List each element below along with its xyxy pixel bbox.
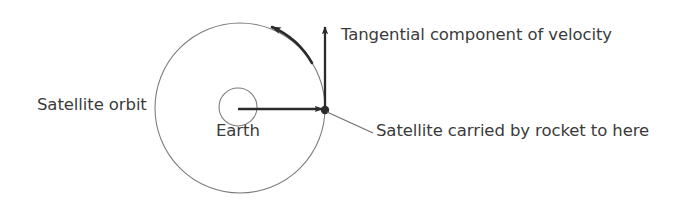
tangential-component-label: Tangential component of velocity (341, 27, 612, 44)
satellite-leader-line (327, 112, 373, 133)
satellite-carried-label: Satellite carried by rocket to here (376, 123, 649, 140)
satellite-orbit-label: Satellite orbit (37, 97, 147, 114)
satellite-orbit-diagram: Satellite orbit Earth Tangential compone… (0, 0, 691, 207)
earth-label: Earth (216, 123, 260, 140)
